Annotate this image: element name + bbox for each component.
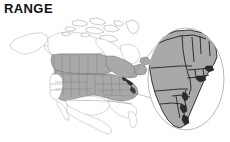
main-map-group	[10, 18, 150, 134]
range-shaded-western-canada	[51, 54, 114, 74]
region-alaska	[10, 33, 48, 54]
region-greenland-edge	[126, 20, 139, 34]
range-shaded-maritimes	[134, 64, 147, 75]
map-canvas	[0, 0, 230, 142]
inset-group	[148, 28, 224, 130]
range-map-figure: RANGE	[0, 0, 230, 142]
